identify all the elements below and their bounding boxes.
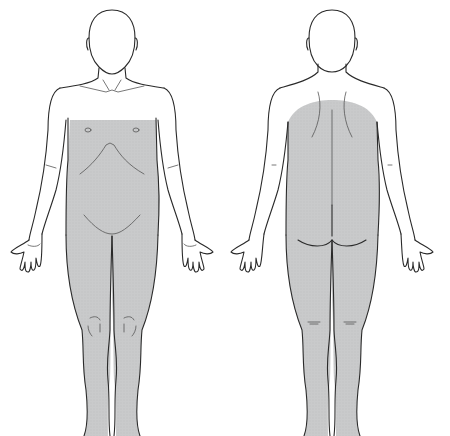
back-left-hand xyxy=(231,234,264,272)
back-head xyxy=(309,10,355,72)
front-head xyxy=(89,10,135,74)
back-right-hand xyxy=(401,234,433,272)
body-chart-diagram: Front view Back view Trunk below the che… xyxy=(0,0,450,436)
back-figure xyxy=(231,10,433,436)
front-right-hand xyxy=(182,234,213,272)
front-left-hand xyxy=(11,234,42,272)
front-figure xyxy=(11,10,213,436)
